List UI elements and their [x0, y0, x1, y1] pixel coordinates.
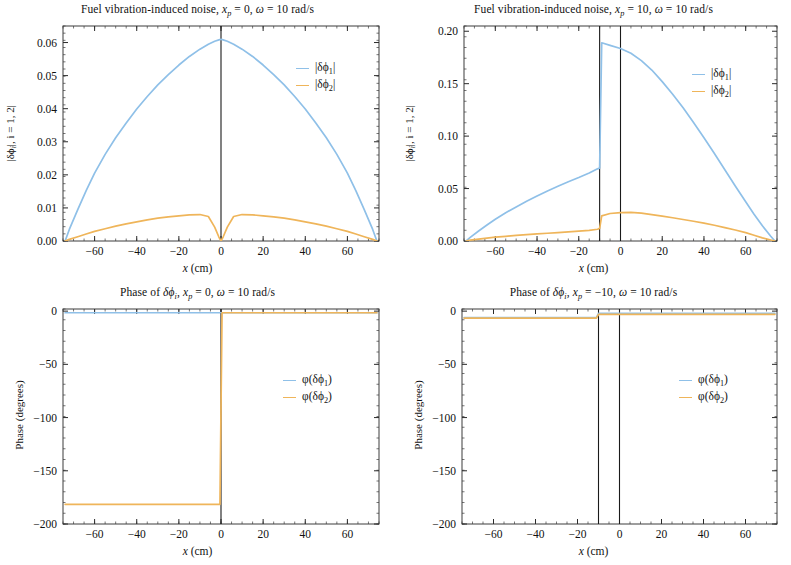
y-tick-label: 0.06 — [37, 37, 57, 49]
panel-bottom-left: Phase of δϕi, xp = 0, ω = 10 rad/s Phase… — [0, 283, 395, 565]
x-tick-label: 40 — [300, 528, 312, 540]
y-tick-label: 0 — [51, 305, 57, 317]
legend-swatch-phi2 — [296, 85, 309, 86]
y-tick-label: −200 — [432, 518, 456, 530]
y-tick-label: −50 — [438, 358, 456, 370]
panel-bottom-right-svg: −60−40−200204060−200−150−100−500 — [396, 283, 791, 565]
legend-swatch-phi2 — [692, 91, 705, 92]
y-tick-label: −100 — [432, 412, 456, 424]
legend-swatch-phi1 — [283, 380, 296, 381]
legend-label-phi1: φ(δϕ1) — [698, 373, 728, 388]
x-tick-label: −40 — [128, 245, 146, 257]
panel-bottom-right: Phase of δϕi, xp = −10, ω = 10 rad/s Pha… — [396, 283, 791, 565]
panel-top-right: Fuel vibration-induced noise, xp = 10, ω… — [396, 0, 791, 282]
legend-swatch-phi1 — [692, 74, 705, 75]
x-tick-label: 0 — [617, 528, 623, 540]
x-tick-label: 0 — [218, 528, 224, 540]
legend-label-phi1: |δϕ1| — [711, 67, 731, 82]
legend-label-phi2: |δϕ2| — [711, 84, 731, 99]
x-tick-label: 20 — [656, 528, 668, 540]
legend-label-phi1: φ(δϕ1) — [302, 373, 332, 388]
x-tick-label: 20 — [257, 245, 269, 257]
y-tick-label: 0.05 — [438, 183, 458, 195]
x-tick-label: 0 — [618, 245, 624, 257]
y-tick-label: 0.04 — [37, 103, 57, 115]
legend-item: |δϕ2| — [692, 83, 731, 100]
x-tick-label: 0 — [218, 245, 224, 257]
panel-bottom-right-legend: φ(δϕ1) φ(δϕ2) — [679, 372, 728, 406]
panel-bottom-left-svg: −60−40−200204060−200−150−100−500 — [0, 283, 395, 565]
legend-item: φ(δϕ2) — [679, 389, 728, 406]
y-tick-label: −150 — [33, 465, 57, 477]
panel-top-left-svg: −60−40−2002040600.000.010.020.030.040.05… — [0, 0, 395, 282]
y-tick-label: 0 — [450, 305, 456, 317]
x-tick-label: −60 — [485, 528, 503, 540]
x-tick-label: 40 — [698, 528, 710, 540]
y-tick-label: 0.10 — [438, 130, 458, 142]
x-tick-label: −60 — [86, 245, 104, 257]
x-tick-label: 60 — [342, 528, 354, 540]
legend-item: |δϕ1| — [296, 60, 335, 77]
legend-label-phi1: |δϕ1| — [315, 61, 335, 76]
legend-item: |δϕ2| — [296, 77, 335, 94]
x-tick-label: −20 — [569, 528, 587, 540]
x-tick-label: 40 — [698, 245, 710, 257]
x-tick-label: 60 — [740, 528, 752, 540]
legend-swatch-phi1 — [679, 380, 692, 381]
y-tick-label: 0.03 — [37, 136, 57, 148]
x-tick-label: −20 — [570, 245, 588, 257]
panel-top-left: Fuel vibration-induced noise, xp = 0, ω … — [0, 0, 395, 282]
legend-label-phi2: φ(δϕ2) — [698, 390, 728, 405]
x-tick-label: −20 — [170, 528, 188, 540]
x-tick-label: −40 — [527, 528, 545, 540]
y-tick-label: −100 — [33, 412, 57, 424]
figure-canvas: Fuel vibration-induced noise, xp = 0, ω … — [0, 0, 791, 565]
y-tick-label: 0.15 — [438, 78, 458, 90]
x-tick-label: −60 — [86, 528, 104, 540]
y-tick-label: 0.00 — [438, 235, 458, 247]
y-tick-label: 0.01 — [37, 202, 57, 214]
legend-item: |δϕ1| — [692, 66, 731, 83]
y-tick-label: −200 — [33, 518, 57, 530]
x-tick-label: −60 — [486, 245, 504, 257]
x-tick-label: −40 — [528, 245, 546, 257]
legend-item: φ(δϕ1) — [679, 372, 728, 389]
x-tick-label: 20 — [656, 245, 668, 257]
x-tick-label: 60 — [740, 245, 752, 257]
x-tick-label: 40 — [300, 245, 312, 257]
y-tick-label: −50 — [39, 358, 57, 370]
legend-swatch-phi2 — [679, 397, 692, 398]
legend-label-phi2: φ(δϕ2) — [302, 390, 332, 405]
panel-top-left-legend: |δϕ1| |δϕ2| — [296, 60, 335, 94]
panel-bottom-left-legend: φ(δϕ1) φ(δϕ2) — [283, 372, 332, 406]
series-line-2 — [65, 313, 377, 505]
legend-item: φ(δϕ2) — [283, 389, 332, 406]
legend-item: φ(δϕ1) — [283, 372, 332, 389]
x-tick-label: 20 — [257, 528, 269, 540]
legend-label-phi2: |δϕ2| — [315, 78, 335, 93]
y-tick-label: −150 — [432, 465, 456, 477]
y-tick-label: 0.20 — [438, 25, 458, 37]
x-tick-label: −40 — [128, 528, 146, 540]
legend-swatch-phi1 — [296, 68, 309, 69]
x-tick-label: −20 — [170, 245, 188, 257]
panel-top-right-legend: |δϕ1| |δϕ2| — [692, 66, 731, 100]
x-tick-label: 60 — [342, 245, 354, 257]
y-tick-label: 0.00 — [37, 235, 57, 247]
y-tick-label: 0.05 — [37, 70, 57, 82]
y-tick-label: 0.02 — [37, 169, 57, 181]
panel-top-right-svg: −60−40−2002040600.000.050.100.150.20 — [396, 0, 791, 282]
legend-swatch-phi2 — [283, 397, 296, 398]
